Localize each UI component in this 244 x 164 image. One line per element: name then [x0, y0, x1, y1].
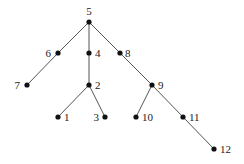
- node-label-10: 10: [142, 111, 154, 123]
- node-label-5: 5: [86, 5, 92, 17]
- nodes-group: [24, 19, 216, 151]
- edges-group: [27, 22, 214, 149]
- node-label-6: 6: [46, 47, 52, 59]
- node-label-12: 12: [220, 143, 231, 155]
- edge-9-11: [152, 85, 183, 117]
- node-label-2: 2: [95, 79, 101, 91]
- node-8: [117, 50, 122, 55]
- node-12: [211, 146, 216, 151]
- node-9: [149, 82, 154, 87]
- node-2: [86, 82, 91, 87]
- node-label-7: 7: [15, 79, 21, 91]
- node-11: [180, 114, 185, 119]
- edge-6-7: [27, 53, 58, 85]
- node-label-11: 11: [189, 111, 200, 123]
- node-label-4: 4: [95, 47, 101, 59]
- edge-5-6: [58, 22, 89, 53]
- edge-5-8: [89, 22, 120, 53]
- node-label-3: 3: [94, 111, 100, 123]
- node-10: [133, 114, 138, 119]
- edge-2-1: [58, 85, 89, 117]
- node-1: [55, 114, 60, 119]
- node-4: [86, 50, 91, 55]
- node-7: [24, 82, 29, 87]
- node-label-1: 1: [64, 111, 70, 123]
- node-label-9: 9: [158, 79, 164, 91]
- node-label-8: 8: [125, 47, 131, 59]
- node-3: [102, 114, 107, 119]
- node-5: [86, 19, 91, 24]
- tree-svg: 564872913101112: [0, 0, 244, 164]
- node-6: [55, 50, 60, 55]
- tree-diagram: 564872913101112: [0, 0, 244, 164]
